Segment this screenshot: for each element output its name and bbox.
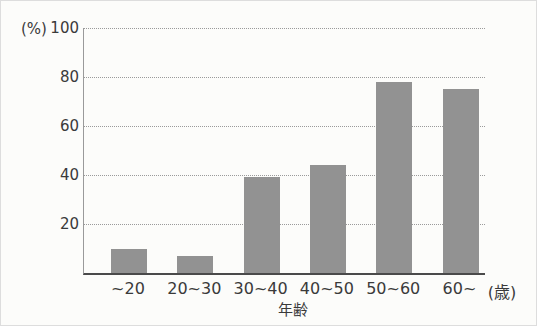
bar-40~50 (310, 165, 346, 273)
y-tick-label-40: 40 (1, 166, 79, 184)
gridline-40 (84, 175, 485, 176)
y-tick-label-20: 20 (1, 215, 79, 233)
x-axis-title: 年齢 (253, 298, 333, 319)
bar-30~40 (244, 177, 280, 273)
gridline-60 (84, 126, 485, 127)
y-tick-label-100: 100 (1, 19, 79, 37)
gridline-100 (84, 28, 485, 29)
bar-60~ (443, 89, 479, 273)
gridline-80 (84, 77, 485, 78)
gridline-20 (84, 224, 485, 225)
bar-~20 (111, 249, 147, 274)
bar-50~60 (376, 82, 412, 273)
y-tick-label-80: 80 (1, 68, 79, 86)
x-tick-label-60~: 60~ (420, 279, 500, 299)
plot-area (83, 28, 485, 275)
bar-chart: (%) (歳) 年齢 20406080100~2020~3030~4040~50… (0, 0, 537, 326)
y-tick-label-60: 60 (1, 117, 79, 135)
bar-20~30 (177, 256, 213, 273)
